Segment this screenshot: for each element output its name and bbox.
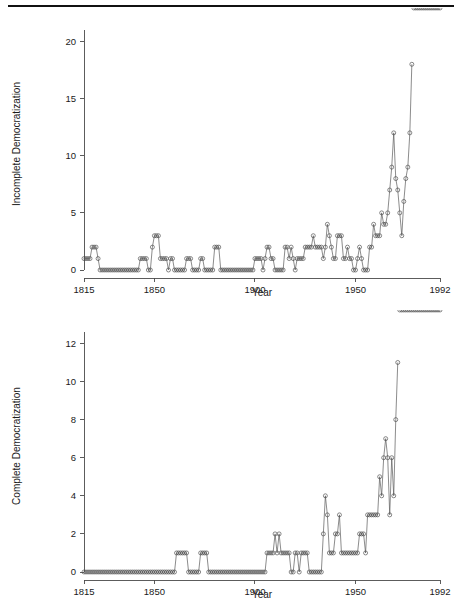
x-axis-title: Year [252,287,273,298]
y-tick-label: 15 [65,93,76,104]
complete-democratization-plot: 02468101218151850190019501992 Complete D… [0,310,462,606]
series-polyline [84,362,398,572]
y-tick-label: 6 [71,452,76,463]
y-tick-label: 2 [71,528,76,539]
y-tick-label: 0 [71,264,76,275]
y-tick-label: 10 [65,376,76,387]
chart-page: 0510152018151850190019501992 Incomplete … [0,0,462,608]
y-tick-label: 4 [71,490,76,501]
x-tick-label: 1950 [345,284,366,295]
x-tick-label: 1950 [345,586,366,597]
x-axis-title: Year [252,589,273,600]
y-axis-title: Complete Democratization [11,387,22,505]
y-axis-title: Incomplete Democratization [11,82,22,206]
x-tick-label: 1850 [144,586,165,597]
y-tick-label: 10 [65,150,76,161]
y-tick-label: 0 [71,566,76,577]
x-tick-label: 1815 [73,586,94,597]
series-polyline [84,64,412,270]
top-series-group [82,8,442,272]
bottom-series-group [82,310,442,574]
y-tick-label: 12 [65,338,76,349]
figure-complete-democratization: 02468101218151850190019501992 Complete D… [0,310,462,606]
y-tick-label: 20 [65,36,76,47]
y-tick-label: 5 [71,207,76,218]
figure-incomplete-democratization: 0510152018151850190019501992 Incomplete … [0,8,462,304]
incomplete-democratization-plot: 0510152018151850190019501992 Incomplete … [0,8,462,304]
x-tick-label: 1850 [144,284,165,295]
top-axes-group: 0510152018151850190019501992 [65,30,450,295]
page-top-rule [8,5,454,7]
x-tick-label: 1992 [429,586,450,597]
bottom-axes-group: 02468101218151850190019501992 [65,332,450,597]
y-tick-label: 8 [71,414,76,425]
x-tick-label: 1815 [73,284,94,295]
x-tick-label: 1992 [429,284,450,295]
